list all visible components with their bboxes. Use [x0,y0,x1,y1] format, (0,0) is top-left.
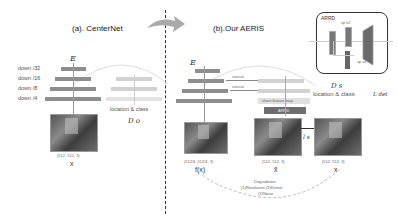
lowres-image-dims: (512/4, 512/4, 3) [184,159,213,164]
centernet-title: (a). CenterNet [72,24,123,33]
hires-image-dims: (512, 512, 3) [322,159,345,164]
concat-label-2: concat [232,84,244,89]
aeris-decoder-axis [285,76,286,116]
lowres-image [184,122,228,154]
aeris-encoder-bar-1 [195,69,220,73]
concat-arrow-1 [226,80,258,81]
level-label-4: down /4 [18,95,37,101]
decoder-axis [134,75,135,105]
input-image [50,114,98,152]
sr-loss-label: l s [303,133,310,140]
concat-label-1: concat [232,74,244,79]
reconstructed-image-dims: (512, 512, 3) [262,159,285,164]
degradation-line1: (1)Resolution (2)Kernel [241,185,282,190]
arrd-box-title: ARRD [321,15,335,21]
transition-arrow-icon [145,14,187,34]
sr-loss-arrow [301,128,314,129]
concat-arrow-2 [230,90,258,91]
section-divider [165,10,166,214]
aeris-skip-arc [200,58,320,88]
aeris-encoder-axis [204,66,205,124]
aeris-decoder-label: D s [331,82,342,90]
location-class-label: location & class [110,106,148,112]
aeris-encoder-bar-2 [188,79,224,83]
aeris-encoder-bar-3 [182,89,228,93]
hires-image [314,118,362,156]
aeris-title: (b).Our AERIS [213,24,264,33]
input-image-label: x [70,160,74,167]
level-label-32: down /32 [18,65,40,71]
arrd-detail-box: ARRD up x2 up x4 [316,12,388,74]
level-label-8: down /8 [18,85,37,91]
aeris-location-class-label: location & class [313,91,355,97]
skip-arc [72,56,172,86]
arrd-trapezoid [361,25,375,65]
input-image-dims: (512, 512, 3) [57,153,80,158]
aeris-encoder-label: E [190,58,196,67]
degradation-title: Degradation [254,179,276,184]
encoder-axis [73,63,74,115]
aeris-decoder-bar-2 [258,89,310,93]
aeris-decoder-bar-1 [258,79,304,83]
det-loss-label: L det [373,91,387,97]
level-label-16: down /16 [18,75,40,81]
arrd-bracket [333,41,354,56]
degradation-line2: (3)Noise [258,191,273,196]
share-feature-map-label: share feature map [262,99,293,103]
decoder-label: D o [128,117,140,125]
arrd-block-label: ARRD [278,108,289,113]
arrd-up-x2-label: up x2 [341,21,350,25]
reconstructed-image [254,118,302,156]
